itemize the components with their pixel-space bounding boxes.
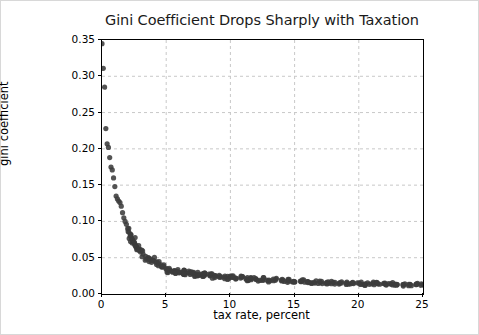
x-axis-tick — [294, 293, 295, 297]
y-tick-label: 0.10 — [59, 214, 95, 226]
scatter-series — [102, 41, 423, 289]
y-tick-label: 0.20 — [59, 142, 95, 154]
y-axis-tick — [98, 148, 102, 149]
x-tick-label: 0 — [98, 298, 105, 310]
y-tick-label: 0.15 — [59, 178, 95, 190]
y-axis-tick — [98, 39, 102, 40]
x-tick-label: 15 — [287, 298, 300, 310]
y-tick-label: 0.00 — [59, 287, 95, 299]
y-tick-label: 0.05 — [59, 251, 95, 263]
y-axis-tick — [98, 112, 102, 113]
y-axis-tick — [98, 75, 102, 76]
y-axis-label: gini coefficient — [0, 81, 11, 166]
x-axis-tick — [229, 293, 230, 297]
y-tick-label: 0.25 — [59, 106, 95, 118]
figure-canvas: Gini Coefficient Drops Sharply with Taxa… — [0, 0, 479, 335]
chart-title: Gini Coefficient Drops Sharply with Taxa… — [101, 12, 423, 28]
x-axis-tick — [165, 293, 166, 297]
x-axis-tick — [422, 293, 423, 297]
x-axis-tick — [358, 293, 359, 297]
x-tick-label: 5 — [162, 298, 169, 310]
x-tick-label: 25 — [415, 298, 428, 310]
plot-svg — [102, 40, 423, 294]
plot-area — [101, 39, 424, 295]
x-axis-tick — [101, 293, 102, 297]
x-axis-label: tax rate, percent — [101, 308, 422, 322]
x-tick-label: 10 — [223, 298, 236, 310]
y-axis-tick — [98, 184, 102, 185]
y-axis-tick — [98, 220, 102, 221]
y-tick-label: 0.30 — [59, 69, 95, 81]
y-axis-tick — [98, 257, 102, 258]
y-tick-label: 0.35 — [59, 33, 95, 45]
x-tick-label: 20 — [351, 298, 364, 310]
